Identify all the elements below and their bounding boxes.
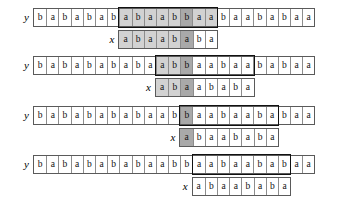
y-cell: a xyxy=(144,156,156,173)
x-cell: b xyxy=(193,31,205,48)
x-cell: b xyxy=(205,178,217,195)
y-cell: b xyxy=(107,107,119,124)
y-sequence-row: ybababababaabbaabaababaa xyxy=(0,106,342,125)
y-row-label: y xyxy=(15,58,29,73)
y-cell: b xyxy=(278,9,290,26)
y-cell: a xyxy=(71,107,83,124)
y-row-label: y xyxy=(15,10,29,25)
y-cell: a xyxy=(95,57,107,74)
x-cell: a xyxy=(156,31,168,48)
y-row-label: y xyxy=(15,157,29,172)
y-cell: a xyxy=(241,156,253,173)
x-sequence-row: xabaababa xyxy=(0,30,342,49)
x-cell: a xyxy=(217,79,229,96)
x-row-label: x xyxy=(100,32,114,47)
alignment-step-2: ybababababaabbaabaababaaxabaababa xyxy=(0,50,342,98)
x-cell: a xyxy=(278,178,290,195)
y-cell: a xyxy=(290,57,302,74)
y-cell: a xyxy=(156,57,168,74)
y-cell: a xyxy=(229,156,241,173)
y-cell: b xyxy=(180,57,192,74)
y-cell: a xyxy=(290,9,302,26)
x-row-label: x xyxy=(161,130,175,145)
y-cell: b xyxy=(168,156,180,173)
y-sequence-row: ybababababaabbaabaababaa xyxy=(0,56,342,75)
x-cell: a xyxy=(119,31,131,48)
y-cell: b xyxy=(83,57,95,74)
x-cell: a xyxy=(241,129,253,146)
y-cell: b xyxy=(58,156,70,173)
y-cell: b xyxy=(217,9,229,26)
y-cell: a xyxy=(119,57,131,74)
y-cell: a xyxy=(192,9,204,26)
y-cell: a xyxy=(119,156,131,173)
y-cell: a xyxy=(156,156,168,173)
y-cell: a xyxy=(71,57,83,74)
y-cell: b xyxy=(278,107,290,124)
y-cell: a xyxy=(119,9,131,26)
x-cell-strip: abaababa xyxy=(155,78,255,97)
y-cell: a xyxy=(241,57,253,74)
x-row-label: x xyxy=(174,179,188,194)
y-cell: a xyxy=(290,156,302,173)
y-cell: a xyxy=(266,107,278,124)
y-cell: a xyxy=(266,9,278,26)
y-cell: b xyxy=(180,9,192,26)
y-cell: a xyxy=(302,9,314,26)
y-cell: b xyxy=(253,107,265,124)
y-cell: a xyxy=(241,9,253,26)
x-cell: a xyxy=(156,79,168,96)
x-cell: b xyxy=(168,79,180,96)
y-cell: a xyxy=(192,156,204,173)
y-cell: a xyxy=(144,57,156,74)
y-cell: a xyxy=(144,9,156,26)
y-cell: b xyxy=(83,9,95,26)
y-cell: b xyxy=(58,107,70,124)
x-cell: a xyxy=(254,178,266,195)
y-cell: b xyxy=(132,57,144,74)
y-cell: b xyxy=(132,107,144,124)
y-cell: a xyxy=(46,156,58,173)
x-cell: a xyxy=(266,129,278,146)
y-cell: a xyxy=(192,107,204,124)
y-cell: b xyxy=(34,9,46,26)
y-cell: a xyxy=(95,107,107,124)
y-cell: a xyxy=(302,57,314,74)
x-cell: a xyxy=(180,31,192,48)
y-cell: b xyxy=(107,9,119,26)
x-cell: b xyxy=(229,129,241,146)
alignment-step-3: ybababababaabbaabaababaaxabaababa xyxy=(0,100,342,148)
y-cell: a xyxy=(229,107,241,124)
y-cell: a xyxy=(95,9,107,26)
y-cell: b xyxy=(253,9,265,26)
y-cell: b xyxy=(34,156,46,173)
x-cell: a xyxy=(217,178,229,195)
y-cell: a xyxy=(119,107,131,124)
y-cell: b xyxy=(83,107,95,124)
y-cell: b xyxy=(217,107,229,124)
y-cell: a xyxy=(266,57,278,74)
x-cell: a xyxy=(241,79,253,96)
y-cell: b xyxy=(180,156,192,173)
x-cell: b xyxy=(132,31,144,48)
y-cell: b xyxy=(253,156,265,173)
y-cell: b xyxy=(253,57,265,74)
x-cell: a xyxy=(205,129,217,146)
y-sequence-row: ybababababaabbaabaababaa xyxy=(0,8,342,27)
y-cell: a xyxy=(205,107,217,124)
x-cell: a xyxy=(180,129,192,146)
y-cell: a xyxy=(229,57,241,74)
x-sequence-row: xabaababa xyxy=(0,128,342,147)
x-cell: b xyxy=(254,129,266,146)
y-cell: b xyxy=(168,9,180,26)
figure-canvas: ybababababaabbaabaababaaxabaababaybababa… xyxy=(0,0,342,198)
y-cell: b xyxy=(217,57,229,74)
y-cell: b xyxy=(58,9,70,26)
y-cell: b xyxy=(168,57,180,74)
y-cell: b xyxy=(107,156,119,173)
y-cell: b xyxy=(34,57,46,74)
x-sequence-row: xabaababa xyxy=(0,177,342,196)
y-cell: a xyxy=(156,107,168,124)
x-cell: a xyxy=(180,79,192,96)
y-cell: a xyxy=(95,156,107,173)
